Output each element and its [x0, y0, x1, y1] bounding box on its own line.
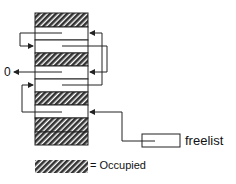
block-occupied-4: [35, 118, 88, 132]
block-occupied-2: [35, 53, 88, 66]
block-occupied-1: [35, 13, 88, 27]
null-pointer-label: 0: [4, 65, 11, 79]
legend-swatch: [35, 160, 88, 173]
block-occupied-5: [35, 132, 88, 145]
free-list-diagram: [0, 0, 236, 184]
freelist-label: freelist: [185, 133, 223, 148]
block-occupied-3: [35, 92, 88, 105]
legend-label: = Occupied: [90, 159, 146, 171]
